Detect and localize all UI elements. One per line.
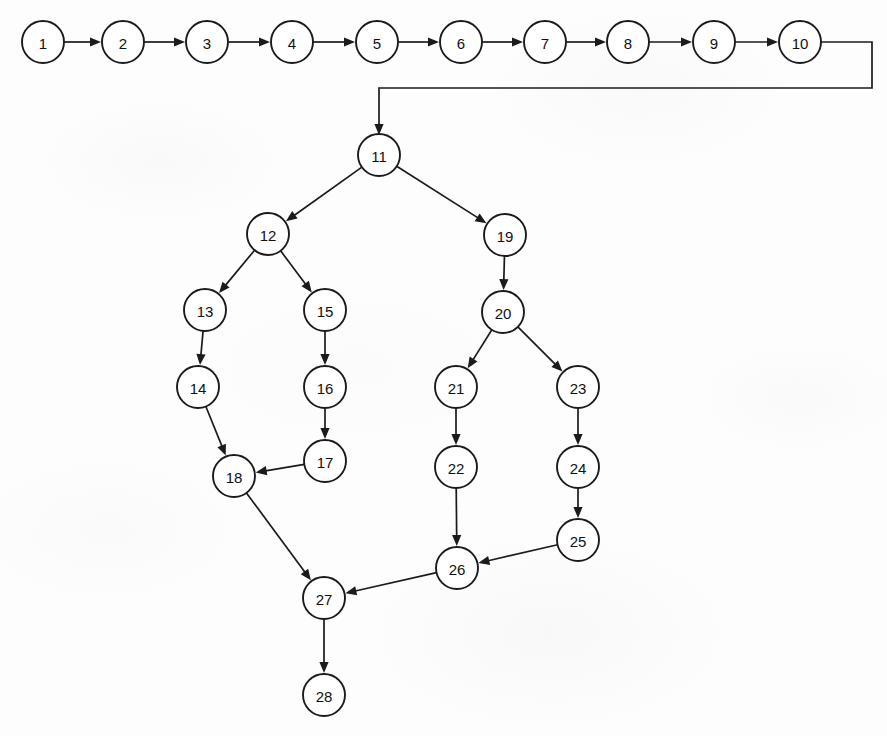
edge-26-to-27: [355, 573, 436, 591]
node-22[interactable]: 22: [435, 446, 477, 488]
node-20-label: 20: [495, 305, 512, 322]
edge-13-to-14-arrow-icon: [196, 354, 205, 365]
edge-12-to-15: [281, 251, 306, 285]
edge-8-to-9-arrow-icon: [681, 37, 692, 46]
edge-18-to-27: [246, 493, 305, 572]
node-25-label: 25: [570, 533, 587, 550]
edge-13-to-14: [201, 331, 203, 355]
node-23[interactable]: 23: [557, 366, 599, 408]
edge-12-to-15-arrow-icon: [302, 281, 312, 293]
edge-6-to-7-arrow-icon: [512, 37, 523, 46]
node-18-label: 18: [226, 469, 243, 486]
node-9-label: 9: [710, 35, 718, 52]
edge-17-to-18-arrow-icon: [256, 466, 268, 475]
edge-19-to-20: [504, 256, 505, 280]
node-14[interactable]: 14: [177, 366, 219, 408]
node-17[interactable]: 17: [304, 440, 346, 482]
node-7[interactable]: 7: [524, 21, 566, 63]
node-14-label: 14: [190, 380, 207, 397]
node-13-label: 13: [197, 303, 214, 320]
node-26[interactable]: 26: [436, 547, 478, 589]
diagram-canvas: 1234567891011121314151617181920212223242…: [0, 0, 887, 736]
node-22-label: 22: [448, 460, 465, 477]
node-6[interactable]: 6: [440, 21, 482, 63]
edge-23-to-24-arrow-icon: [573, 434, 582, 445]
edge-3-to-4-arrow-icon: [259, 37, 270, 46]
node-10-label: 10: [792, 35, 809, 52]
edge-20-to-21-arrow-icon: [468, 357, 478, 369]
node-23-label: 23: [570, 380, 587, 397]
node-19-label: 19: [497, 228, 514, 245]
node-17-label: 17: [317, 454, 334, 471]
node-8-label: 8: [624, 35, 632, 52]
node-16[interactable]: 16: [304, 366, 346, 408]
node-2[interactable]: 2: [102, 21, 144, 63]
directed-graph: 1234567891011121314151617181920212223242…: [0, 0, 887, 736]
node-2-label: 2: [119, 35, 127, 52]
edge-25-to-26: [488, 545, 557, 561]
node-3[interactable]: 3: [186, 21, 228, 63]
node-25[interactable]: 25: [557, 519, 599, 561]
node-15-label: 15: [317, 303, 334, 320]
edge-9-to-10-arrow-icon: [767, 37, 778, 46]
edge-5-to-6-arrow-icon: [428, 37, 439, 46]
node-21-label: 21: [448, 380, 465, 397]
edge-11-to-12-arrow-icon: [286, 211, 298, 221]
node-12-label: 12: [260, 227, 277, 244]
node-11-label: 11: [371, 148, 387, 165]
edge-11-to-19: [397, 166, 478, 218]
node-5-label: 5: [373, 35, 381, 52]
node-7-label: 7: [541, 35, 549, 52]
node-13[interactable]: 13: [184, 289, 226, 331]
edge-16-to-17-arrow-icon: [320, 428, 329, 439]
edge-15-to-16-arrow-icon: [320, 354, 329, 365]
edge-19-to-20-arrow-icon: [499, 279, 508, 290]
edge-14-to-18: [206, 406, 222, 446]
edge-11-to-19-arrow-icon: [475, 213, 487, 223]
nodes-layer: 1234567891011121314151617181920212223242…: [22, 21, 821, 716]
edge-20-to-23: [518, 327, 556, 365]
node-4[interactable]: 4: [271, 21, 313, 63]
node-10[interactable]: 10: [779, 21, 821, 63]
node-1-label: 1: [39, 35, 47, 52]
edge-14-to-18-arrow-icon: [217, 444, 226, 456]
edge-26-to-27-arrow-icon: [345, 586, 357, 595]
edge-12-to-13: [225, 250, 254, 285]
node-24-label: 24: [570, 460, 587, 477]
node-4-label: 4: [288, 35, 296, 52]
node-9[interactable]: 9: [693, 21, 735, 63]
node-11[interactable]: 11: [358, 134, 400, 176]
node-5[interactable]: 5: [356, 21, 398, 63]
edge-4-to-5-arrow-icon: [344, 37, 355, 46]
node-27[interactable]: 27: [303, 577, 345, 619]
node-27-label: 27: [316, 591, 333, 608]
node-28-label: 28: [316, 688, 333, 705]
node-1[interactable]: 1: [22, 21, 64, 63]
node-16-label: 16: [317, 380, 334, 397]
edge-17-to-18: [266, 464, 305, 470]
node-18[interactable]: 18: [213, 455, 255, 497]
edge-24-to-25-arrow-icon: [573, 507, 582, 518]
edge-22-to-26-arrow-icon: [452, 535, 461, 546]
edge-1-to-2-arrow-icon: [90, 37, 101, 46]
node-19[interactable]: 19: [484, 214, 526, 256]
edge-7-to-8-arrow-icon: [595, 37, 606, 46]
node-26-label: 26: [449, 561, 466, 578]
node-20[interactable]: 20: [482, 291, 524, 333]
edge-11-to-12: [294, 167, 362, 215]
node-3-label: 3: [203, 35, 211, 52]
node-8[interactable]: 8: [607, 21, 649, 63]
edge-2-to-3-arrow-icon: [174, 37, 185, 46]
node-6-label: 6: [457, 35, 465, 52]
edge-25-to-26-arrow-icon: [478, 556, 490, 565]
node-15[interactable]: 15: [304, 289, 346, 331]
node-24[interactable]: 24: [557, 446, 599, 488]
edge-18-to-27-arrow-icon: [301, 569, 311, 581]
node-21[interactable]: 21: [435, 366, 477, 408]
edge-21-to-22-arrow-icon: [451, 434, 460, 445]
edge-20-to-21: [473, 330, 492, 360]
node-28[interactable]: 28: [303, 674, 345, 716]
edge-27-to-28-arrow-icon: [319, 662, 328, 673]
node-12[interactable]: 12: [247, 213, 289, 255]
